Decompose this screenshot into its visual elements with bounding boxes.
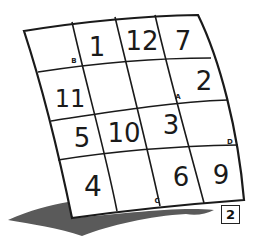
- cell-3-0: 4: [84, 170, 102, 203]
- cell-3-3: 9: [213, 160, 230, 190]
- label-b: B: [71, 57, 76, 65]
- cell-3-2: 6: [173, 162, 190, 192]
- label-d: D: [227, 138, 233, 146]
- figure-number-badge: 2: [221, 205, 240, 224]
- cell-0-2: 12: [125, 26, 158, 56]
- label-a: A: [175, 93, 181, 101]
- puzzle-figure: 1 12 7 11 2 5 10 3 4 6 9 B A D C 2: [0, 0, 257, 245]
- cell-2-2: 3: [163, 110, 180, 140]
- grid-drawing: 1 12 7 11 2 5 10 3 4 6 9 B A D C: [0, 0, 257, 245]
- cell-0-3: 7: [175, 26, 192, 56]
- cell-1-3: 2: [196, 66, 213, 96]
- cell-2-0: 5: [74, 123, 91, 153]
- cell-1-0: 11: [55, 85, 86, 113]
- label-c: C: [154, 197, 159, 205]
- cell-0-1: 1: [89, 32, 106, 62]
- cell-2-1: 10: [107, 118, 140, 148]
